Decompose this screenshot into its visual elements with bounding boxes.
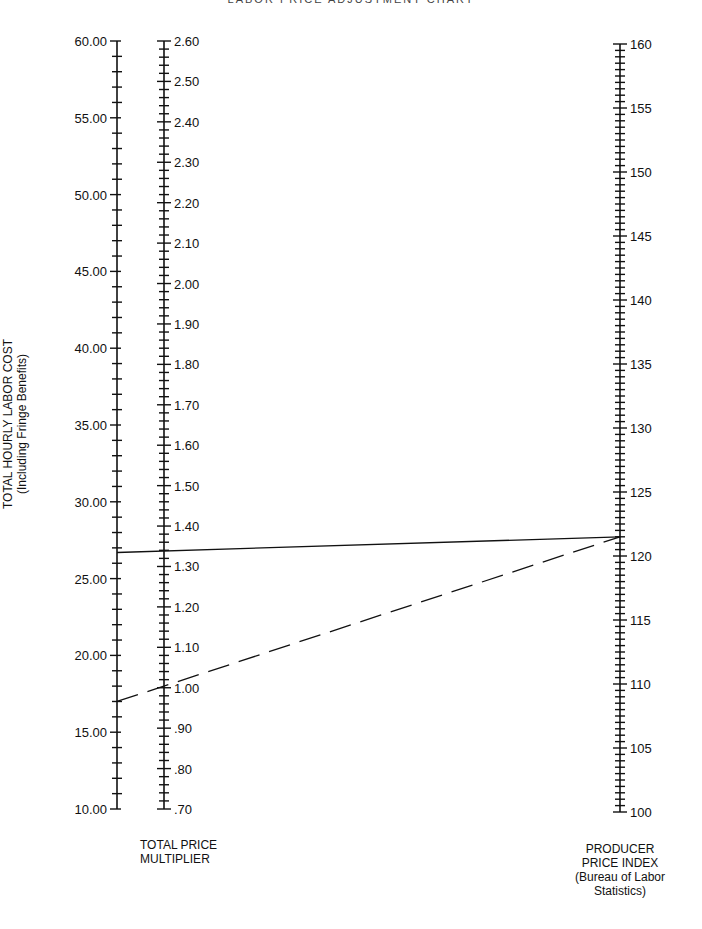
tick-label: 1.20 xyxy=(174,600,199,615)
tick-label: 115 xyxy=(630,613,651,628)
tick-label: 1.60 xyxy=(174,438,199,453)
tick-label: 100 xyxy=(630,805,652,820)
tick-label: 145 xyxy=(630,229,652,244)
tick-label: 1.70 xyxy=(174,398,199,413)
tick-label: 1.90 xyxy=(174,317,199,332)
tick-label: 1.30 xyxy=(174,559,199,574)
tick-label: 2.50 xyxy=(174,74,199,89)
tick-label: 125 xyxy=(630,485,652,500)
multiplier-axis-title: TOTAL PRICE MULTIPLIER xyxy=(140,838,217,866)
tick-label: 2.40 xyxy=(174,115,199,130)
tick-label: 110 xyxy=(630,677,651,692)
tick-label: 1.80 xyxy=(174,357,199,372)
nomogram: 10.0015.0020.0025.0030.0035.0040.0045.00… xyxy=(0,0,702,929)
tick-label: 1.10 xyxy=(174,640,199,655)
tick-label: 20.00 xyxy=(74,648,107,663)
tick-label: 30.00 xyxy=(74,495,107,510)
tick-label: 2.20 xyxy=(174,196,199,211)
tick-label: 45.00 xyxy=(74,264,107,279)
tick-label: 25.00 xyxy=(74,572,107,587)
tick-label: 40.00 xyxy=(74,341,107,356)
tick-label: 1.40 xyxy=(174,519,199,534)
tick-label: 140 xyxy=(630,293,652,308)
tick-label: 60.00 xyxy=(74,34,107,49)
tick-label: 120 xyxy=(630,549,652,564)
tick-label: 10.00 xyxy=(74,802,107,817)
tick-label: .70 xyxy=(174,802,192,817)
tick-label: 150 xyxy=(630,165,652,180)
tick-label: 135 xyxy=(630,357,652,372)
tick-label: 2.30 xyxy=(174,155,199,170)
tick-label: .90 xyxy=(174,721,192,736)
tick-label: 50.00 xyxy=(74,188,107,203)
tick-label: 1.50 xyxy=(174,479,199,494)
tick-label: 55.00 xyxy=(74,111,107,126)
tick-label: 15.00 xyxy=(74,725,107,740)
tick-label: 160 xyxy=(630,37,652,52)
tick-label: 105 xyxy=(630,741,652,756)
solid-reading-line xyxy=(117,537,620,553)
tick-label: 1.00 xyxy=(174,681,199,696)
tick-label: 2.00 xyxy=(174,277,199,292)
tick-label: .80 xyxy=(174,762,192,777)
tick-label: 130 xyxy=(630,421,652,436)
tick-label: 2.10 xyxy=(174,236,199,251)
tick-label: 35.00 xyxy=(74,418,107,433)
tick-label: 2.60 xyxy=(174,34,199,49)
tick-label: 155 xyxy=(630,101,652,116)
ppi-axis-title: PRODUCER PRICE INDEX (Bureau of Labor St… xyxy=(560,842,680,898)
